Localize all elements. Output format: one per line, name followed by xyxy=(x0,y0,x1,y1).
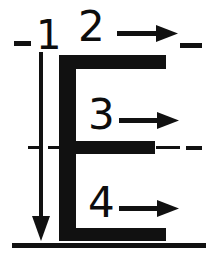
arrow-right-stroke-4 xyxy=(119,200,179,217)
guide-baseline xyxy=(12,243,206,248)
stroke-number-1: 1 xyxy=(36,15,61,55)
glyph-stroke-3-middle-bar xyxy=(59,141,155,154)
arrow-right-stroke-3 xyxy=(119,112,179,129)
stroke-order-diagram: 1 2 3 4 xyxy=(0,0,214,260)
stroke-number-3: 3 xyxy=(88,94,115,136)
glyph-stroke-4-bottom-bar xyxy=(59,228,166,241)
stroke-number-4: 4 xyxy=(88,182,115,224)
arrow-right-stroke-2 xyxy=(117,25,178,42)
glyph-stroke-2-top-bar xyxy=(59,55,166,69)
stroke-number-2: 2 xyxy=(78,6,105,48)
